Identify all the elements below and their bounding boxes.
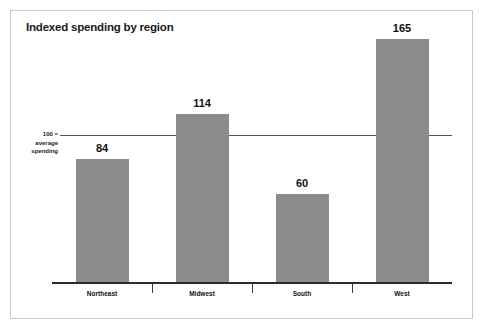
category-label-west: West xyxy=(362,290,442,297)
axis-tick-3 xyxy=(352,284,353,293)
bars-layer: 8411460165 xyxy=(0,0,484,283)
bar-value-northeast: 84 xyxy=(72,142,132,154)
axis-tick-2 xyxy=(252,284,253,293)
bar-midwest xyxy=(176,114,229,283)
bar-south xyxy=(276,194,329,283)
category-label-south: South xyxy=(262,290,342,297)
bar-northeast xyxy=(76,159,129,283)
bar-value-west: 165 xyxy=(372,22,432,34)
bar-value-south: 60 xyxy=(272,177,332,189)
category-label-midwest: Midwest xyxy=(162,290,242,297)
bar-value-midwest: 114 xyxy=(172,97,232,109)
bar-west xyxy=(376,39,429,283)
chart-canvas: Indexed spending by region 100 = average… xyxy=(0,0,484,332)
category-label-northeast: Northeast xyxy=(62,290,142,297)
axis-tick-1 xyxy=(152,284,153,293)
